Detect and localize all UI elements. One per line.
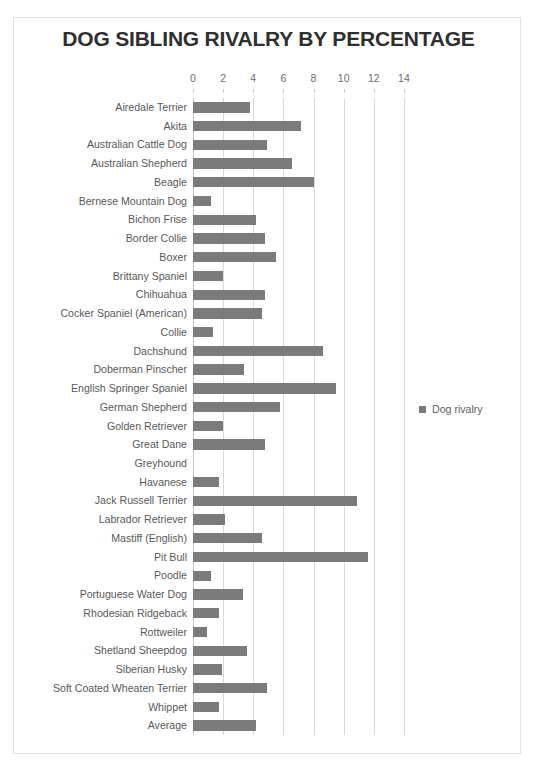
bar: [193, 702, 219, 712]
bar-row: Golden Retriever: [0, 417, 537, 436]
category-label: Bernese Mountain Dog: [79, 192, 193, 211]
bar: [193, 271, 223, 281]
bar: [193, 196, 211, 206]
category-label: Jack Russell Terrier: [95, 491, 193, 510]
bar-row: Mastiff (English): [0, 529, 537, 548]
category-label: Brittany Spaniel: [113, 267, 193, 286]
category-label: Average: [148, 716, 193, 735]
bar: [193, 589, 243, 599]
category-label: Beagle: [154, 173, 193, 192]
bar-row: Doberman Pinscher: [0, 360, 537, 379]
bar-row: Shetland Sheepdog: [0, 641, 537, 660]
bar-row: Poodle: [0, 566, 537, 585]
bar-row: Portuguese Water Dog: [0, 585, 537, 604]
x-tick-mark-14: [404, 89, 405, 93]
bar-row: Siberian Husky: [0, 660, 537, 679]
bar: [193, 364, 244, 374]
category-label: Mastiff (English): [111, 529, 193, 548]
bar: [193, 496, 357, 506]
x-tick-label-8: 8: [311, 72, 317, 84]
x-tick-mark-10: [344, 89, 345, 93]
category-label: Airedale Terrier: [115, 98, 193, 117]
category-label: Akita: [163, 117, 193, 136]
bar-row: Rhodesian Ridgeback: [0, 604, 537, 623]
category-label: Rottweiler: [140, 623, 193, 642]
category-label: German Shepherd: [100, 398, 193, 417]
chart-page: DOG SIBLING RIVALRY BY PERCENTAGE 024681…: [0, 0, 537, 775]
bar: [193, 308, 262, 318]
bar-row: Airedale Terrier: [0, 98, 537, 117]
x-tick-label-10: 10: [338, 72, 350, 84]
bar-row: Great Dane: [0, 435, 537, 454]
legend-label: Dog rivalry: [432, 403, 483, 415]
bar-row: Bernese Mountain Dog: [0, 192, 537, 211]
bar-row: Boxer: [0, 248, 537, 267]
category-label: Greyhound: [135, 454, 193, 473]
x-tick-mark-12: [374, 89, 375, 93]
bar-row: Chihuahua: [0, 285, 537, 304]
bar: [193, 402, 280, 412]
bar-row: Brittany Spaniel: [0, 267, 537, 286]
bar: [193, 158, 292, 168]
bar: [193, 233, 265, 243]
bar-rows: Airedale TerrierAkitaAustralian Cattle D…: [0, 98, 537, 735]
bar-row: Dachshund: [0, 342, 537, 361]
chart-title: DOG SIBLING RIVALRY BY PERCENTAGE: [0, 27, 537, 51]
bar: [193, 552, 368, 562]
bar: [193, 608, 219, 618]
legend: Dog rivalry: [419, 403, 483, 415]
category-label: Rhodesian Ridgeback: [83, 604, 193, 623]
bar-row: Pit Bull: [0, 548, 537, 567]
category-label: English Springer Spaniel: [71, 379, 193, 398]
bar-row: English Springer Spaniel: [0, 379, 537, 398]
bar: [193, 215, 256, 225]
category-label: Poodle: [154, 566, 193, 585]
x-tick-label-12: 12: [368, 72, 380, 84]
bar-row: Soft Coated Wheaten Terrier: [0, 679, 537, 698]
bar-row: Rottweiler: [0, 623, 537, 642]
category-label: Soft Coated Wheaten Terrier: [53, 679, 193, 698]
bar: [193, 439, 265, 449]
bar: [193, 627, 207, 637]
x-tick-label-14: 14: [398, 72, 410, 84]
bar: [193, 514, 225, 524]
bar: [193, 346, 323, 356]
category-label: Golden Retriever: [107, 417, 193, 436]
x-tick-label-4: 4: [250, 72, 256, 84]
bar: [193, 533, 262, 543]
bar: [193, 720, 256, 730]
bar: [193, 664, 222, 674]
bar: [193, 102, 250, 112]
bar: [193, 571, 211, 581]
bar-row: Bichon Frise: [0, 210, 537, 229]
bar-row: Beagle: [0, 173, 537, 192]
category-label: Pit Bull: [154, 548, 193, 567]
category-label: Whippet: [148, 698, 193, 717]
bar: [193, 383, 336, 393]
category-label: Shetland Sheepdog: [94, 641, 193, 660]
bar: [193, 121, 301, 131]
category-label: Labrador Retriever: [99, 510, 193, 529]
bar: [193, 327, 213, 337]
bar-row: Whippet: [0, 698, 537, 717]
x-tick-mark-0: [193, 89, 194, 93]
x-tick-mark-2: [223, 89, 224, 93]
bar-row: Australian Shepherd: [0, 154, 537, 173]
bar-row: Border Collie: [0, 229, 537, 248]
x-tick-mark-8: [314, 89, 315, 93]
bar-row: Havanese: [0, 473, 537, 492]
category-label: Boxer: [159, 248, 193, 267]
bar-row: Cocker Spaniel (American): [0, 304, 537, 323]
category-label: Chihuahua: [136, 285, 193, 304]
bar-row: Average: [0, 716, 537, 735]
legend-swatch-icon: [419, 406, 426, 413]
category-label: Great Dane: [132, 435, 193, 454]
bar: [193, 140, 267, 150]
category-label: Doberman Pinscher: [93, 360, 193, 379]
category-label: Australian Cattle Dog: [87, 135, 193, 154]
bar-row: Jack Russell Terrier: [0, 491, 537, 510]
x-tick-mark-6: [283, 89, 284, 93]
category-label: Havanese: [139, 473, 193, 492]
x-tick-label-0: 0: [190, 72, 196, 84]
bar-row: Akita: [0, 117, 537, 136]
